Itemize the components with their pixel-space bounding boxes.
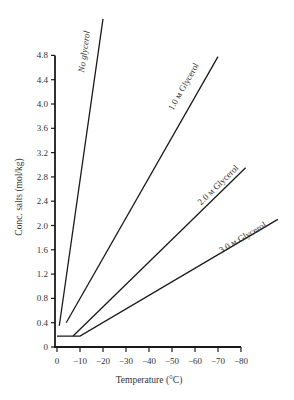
y-tick-label: 3.2 [37, 148, 48, 158]
y-tick-label: 0.8 [37, 293, 49, 303]
y-tick-label: 2.4 [37, 196, 49, 206]
y-tick-label: 1.6 [37, 245, 49, 255]
y-tick-label: 4.8 [37, 50, 49, 60]
y-tick-label: 0 [44, 342, 49, 352]
x-axis: 0−10−20−30−40−50−60−70−80 [54, 347, 249, 366]
x-tick-label: −20 [96, 356, 111, 366]
y-tick-label: 2.0 [37, 221, 49, 231]
x-tick-label: 0 [55, 356, 60, 366]
y-axis: 00.40.81.21.62.02.42.83.23.64.04.44.8 [37, 50, 55, 352]
x-axis-label: Temperature (°C) [116, 375, 183, 386]
y-tick-label: 0.4 [37, 318, 49, 328]
y-axis-label: Conc. salts (mol/kg) [14, 158, 25, 235]
x-tick-label: −60 [188, 356, 203, 366]
y-tick-label: 1.2 [37, 269, 48, 279]
y-tick-label: 4.0 [37, 99, 49, 109]
x-tick-label: −50 [165, 356, 180, 366]
series-line [66, 57, 218, 323]
series-label: 1.0 м Glycerol [166, 61, 201, 112]
x-tick-label: −70 [211, 356, 226, 366]
y-tick-label: 3.6 [37, 123, 49, 133]
series-label: 2.0 м Glycerol [195, 162, 240, 206]
x-tick-label: −40 [142, 356, 157, 366]
series-lines [57, 19, 278, 336]
y-tick-label: 2.8 [37, 172, 49, 182]
series-label: 3.0 м Glycerol [217, 219, 268, 255]
series-label: No glycerol [76, 30, 92, 74]
x-tick-label: −10 [73, 356, 88, 366]
x-tick-label: −30 [119, 356, 134, 366]
x-tick-label: −80 [234, 356, 249, 366]
series-labels: No glycerol1.0 м Glycerol2.0 м Glycerol3… [76, 30, 268, 256]
chart: 00.40.81.21.62.02.42.83.23.64.04.44.8 0−… [0, 0, 294, 400]
y-tick-label: 4.4 [37, 75, 49, 85]
